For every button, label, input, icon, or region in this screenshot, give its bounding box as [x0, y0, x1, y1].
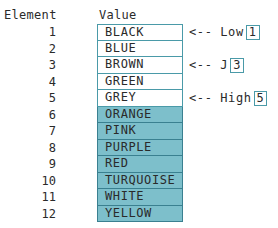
value-column-header: Value [99, 8, 137, 22]
element-index: 1 [0, 24, 56, 40]
array-row: 2 BLUE [97, 41, 183, 58]
element-index: 3 [0, 57, 56, 73]
low-pointer-label: <-- Low [189, 25, 244, 39]
array-row: 12 YELLOW [97, 206, 183, 223]
element-index: 5 [0, 90, 56, 106]
array-cell-discarded: YELLOW [97, 206, 183, 223]
array-row: 8 PURPLE [97, 140, 183, 157]
element-index: 9 [0, 156, 56, 172]
array-row: 1 BLACK <-- Low1 [97, 24, 183, 41]
element-index: 12 [0, 206, 56, 222]
element-index: 6 [0, 107, 56, 123]
high-pointer-value: 5 [254, 91, 268, 106]
element-index: 10 [0, 173, 56, 189]
j-pointer-value: 3 [230, 58, 244, 73]
high-pointer-label: <-- High [189, 91, 252, 105]
array-cell-discarded: WHITE [97, 189, 183, 206]
array-row: 7 PINK [97, 123, 183, 140]
array-cell: GREY [97, 90, 183, 107]
element-index: 4 [0, 74, 56, 90]
array-row: 4 GREEN [97, 74, 183, 91]
array-row: 3 BROWN <-- J3 [97, 57, 183, 74]
array-cell: GREEN [97, 74, 183, 91]
array-row: 6 ORANGE [97, 107, 183, 124]
element-index: 11 [0, 189, 56, 205]
array-cell-discarded: TURQUOISE [97, 173, 183, 190]
array-row: 10 TURQUOISE [97, 173, 183, 190]
element-index: 2 [0, 41, 56, 57]
array-row: 11 WHITE [97, 189, 183, 206]
j-pointer-label: <-- J [189, 58, 228, 72]
array-row: 5 GREY <-- High5 [97, 90, 183, 107]
low-pointer-value: 1 [246, 25, 260, 40]
array-row: 9 RED [97, 156, 183, 173]
array-table: 1 BLACK <-- Low1 2 BLUE 3 BROWN <-- J3 4… [97, 24, 183, 222]
element-index: 7 [0, 123, 56, 139]
element-column-header: Element [4, 8, 57, 22]
low-pointer: <-- Low1 [189, 24, 260, 40]
element-index: 8 [0, 140, 56, 156]
array-cell-discarded: RED [97, 156, 183, 173]
high-pointer: <-- High5 [189, 90, 267, 106]
array-cell-discarded: ORANGE [97, 107, 183, 124]
array-cell-discarded: PURPLE [97, 140, 183, 157]
array-cell: BLUE [97, 41, 183, 58]
array-cell: BLACK [97, 24, 183, 41]
array-cell-discarded: PINK [97, 123, 183, 140]
array-cell: BROWN [97, 57, 183, 74]
j-pointer: <-- J3 [189, 57, 244, 73]
